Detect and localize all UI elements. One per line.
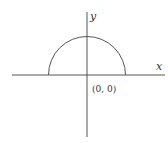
coordinate-diagram: x y (0, 0) (0, 0, 168, 143)
origin-label: (0, 0) (92, 84, 116, 94)
x-axis-label: x (156, 60, 163, 73)
y-axis-label: y (89, 10, 97, 23)
